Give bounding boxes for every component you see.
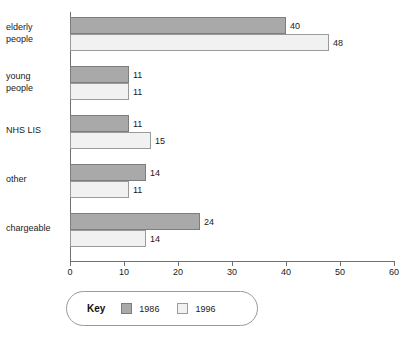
category-label-line1: NHS LIS [6,125,66,137]
legend-swatch-icon-1986 [121,303,132,314]
category-label-other: other [6,174,66,186]
bar-young-people-1986 [70,66,129,83]
legend-label-1986: 1986 [139,304,159,314]
category-label-elderly-people: elderly people [6,22,66,45]
bar-chart: 0 10 20 30 40 50 60 elderly people young… [0,0,400,285]
bar-other-1996 [70,181,129,198]
x-tick-mark [394,262,395,266]
x-tick-label-60: 60 [382,267,406,278]
legend-entry-1996: 1996 [177,303,215,314]
x-tick-mark [286,262,287,266]
bar-value-nhs-lis-1986: 11 [133,119,142,130]
bar-value-nhs-lis-1996: 15 [155,136,165,147]
x-tick-mark [340,262,341,266]
category-label-line1: elderly [6,22,66,34]
x-tick-label-0: 0 [58,267,82,278]
x-tick-label-30: 30 [220,267,244,278]
category-label-young-people: young people [6,71,66,94]
bar-value-chargeable-1986: 24 [204,217,214,228]
category-label-nhs-lis: NHS LIS [6,125,66,137]
bar-value-elderly-people-1996: 48 [333,38,343,49]
bar-elderly-people-1986 [70,17,286,34]
x-tick-label-50: 50 [328,267,352,278]
x-tick-mark [124,262,125,266]
legend-entry-1986: 1986 [121,303,159,314]
bar-value-young-people-1986: 11 [133,70,142,81]
category-label-line2: people [6,34,66,46]
legend-label-1996: 1996 [195,304,215,314]
bar-nhs-lis-1986 [70,115,129,132]
bar-value-chargeable-1996: 14 [150,234,160,245]
chart-legend: Key 1986 1996 [66,291,258,326]
chart-page: 0 10 20 30 40 50 60 elderly people young… [0,0,413,338]
bar-value-elderly-people-1986: 40 [290,21,300,32]
bar-chargeable-1986 [70,213,200,230]
legend-content: Key 1986 1996 [67,292,257,325]
legend-title: Key [87,303,105,314]
bar-value-other-1996: 11 [133,185,142,196]
x-tick-label-10: 10 [112,267,136,278]
bar-other-1986 [70,164,146,181]
bar-nhs-lis-1996 [70,132,151,149]
bar-chargeable-1996 [70,230,146,247]
legend-swatch-icon-1996 [177,303,188,314]
bar-value-young-people-1996: 11 [133,87,142,98]
x-tick-mark [232,262,233,266]
x-tick-mark [70,262,71,266]
category-label-chargeable: chargeable [6,223,66,235]
x-tick-label-40: 40 [274,267,298,278]
category-label-line2: people [6,83,66,95]
bar-value-other-1986: 14 [150,168,160,179]
x-tick-label-20: 20 [166,267,190,278]
category-label-line1: other [6,174,66,186]
category-label-line1: chargeable [6,223,66,235]
x-tick-mark [178,262,179,266]
bar-elderly-people-1996 [70,34,329,51]
category-label-line1: young [6,71,66,83]
bar-young-people-1996 [70,83,129,100]
